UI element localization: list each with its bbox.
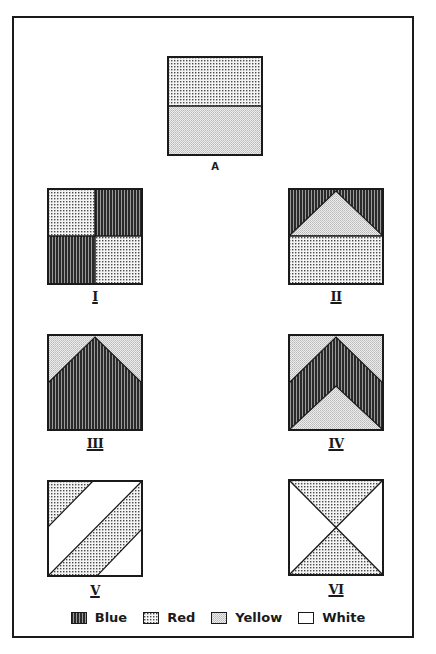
legend-item-red: Red	[143, 610, 195, 625]
legend-item-yellow: Yellow	[211, 610, 282, 625]
figure-iii	[47, 334, 143, 431]
figure-i	[47, 188, 143, 285]
figure-vi-label: VI	[288, 582, 384, 597]
figure-i-label: I	[47, 289, 143, 304]
legend-label-red: Red	[167, 610, 195, 625]
figure-a	[167, 56, 263, 156]
legend-label-white: White	[322, 610, 365, 625]
figure-vi	[288, 479, 384, 576]
figure-a-label: A	[167, 161, 263, 172]
figure-v	[47, 480, 143, 577]
figure-ii-label: II	[288, 289, 384, 304]
red-swatch-icon	[143, 612, 159, 624]
legend-label-yellow: Yellow	[235, 610, 282, 625]
legend-item-white: White	[298, 610, 365, 625]
legend: Blue Red Yellow White	[0, 610, 436, 625]
figure-iv	[288, 334, 384, 431]
white-swatch-icon	[298, 612, 314, 624]
figure-ii	[288, 188, 384, 285]
figure-iii-label: III	[47, 436, 143, 451]
legend-label-blue: Blue	[95, 610, 127, 625]
figure-v-label: V	[47, 583, 143, 598]
legend-item-blue: Blue	[71, 610, 127, 625]
yellow-swatch-icon	[211, 612, 227, 624]
blue-swatch-icon	[71, 612, 87, 624]
figure-iv-label: IV	[288, 436, 384, 451]
